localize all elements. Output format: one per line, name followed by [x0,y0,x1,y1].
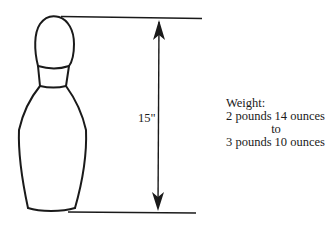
weight-max: 3 pounds 10 ounces [226,136,326,149]
weight-caption: Weight: 2 pounds 14 ounces to 3 pounds 1… [226,97,326,149]
bottom-extension-line [68,212,196,213]
top-extension-line [61,17,202,19]
vertical-dimension-line [158,22,159,208]
bowling-pin-outline [19,16,86,211]
height-label: 15" [137,111,157,126]
